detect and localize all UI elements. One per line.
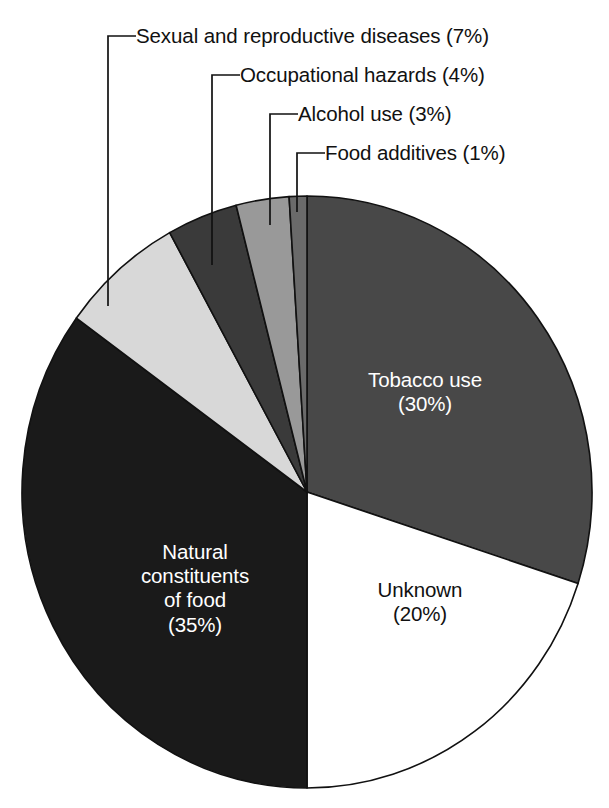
slice-label-tobacco-use: Tobacco use (30%) bbox=[340, 368, 510, 416]
slice-label-unknown: Unknown (20%) bbox=[345, 578, 495, 626]
callout-sexual-and-reproductive-diseases: Sexual and reproductive diseases (7%) bbox=[136, 24, 489, 48]
callout-alcohol-use: Alcohol use (3%) bbox=[298, 102, 451, 126]
pie-chart-figure: Sexual and reproductive diseases (7%) Oc… bbox=[0, 0, 609, 808]
callout-food-additives: Food additives (1%) bbox=[325, 141, 505, 165]
slice-label-natural-constituents-of-food: Natural constituents of food (35%) bbox=[105, 540, 285, 637]
callout-occupational-hazards: Occupational hazards (4%) bbox=[240, 63, 485, 87]
